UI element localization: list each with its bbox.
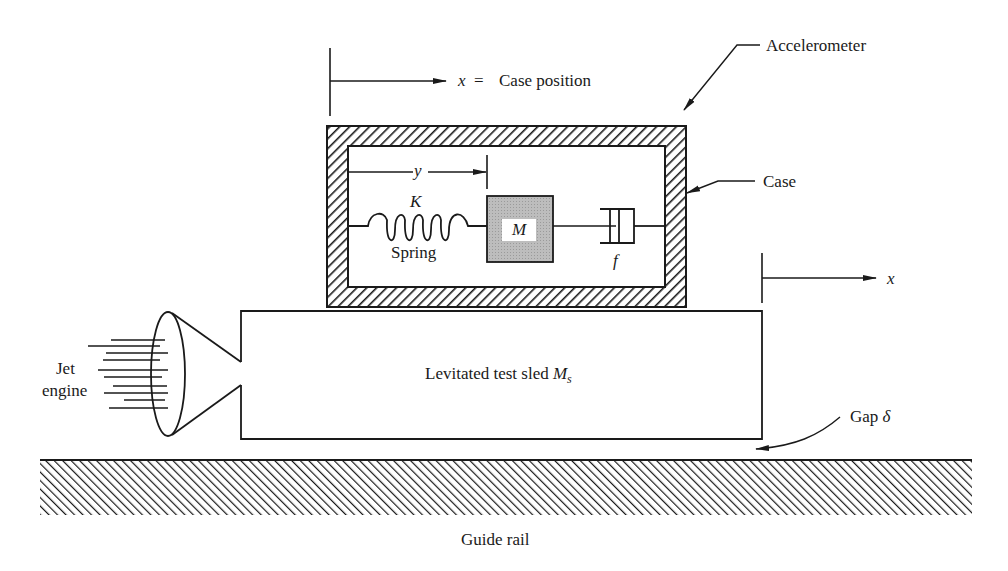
spring	[348, 214, 487, 240]
mass-label: M	[502, 219, 536, 241]
sled-mass-symbol: Ms	[553, 364, 572, 383]
case-position-indicator	[330, 48, 446, 116]
jet-engine-label-line1: Jet	[56, 360, 75, 377]
damper	[600, 209, 665, 243]
sled-mass-subscript: s	[567, 372, 572, 386]
spring-label: Spring	[391, 244, 436, 261]
sled-label: Levitated test sled Ms	[425, 365, 572, 385]
accelerometer-leader-arrow	[684, 45, 760, 110]
case-position-eq: =	[474, 72, 484, 89]
gap-label: Gap δ	[850, 408, 890, 425]
gap-delta-symbol: δ	[883, 407, 891, 426]
x-variable-label: x	[887, 270, 895, 287]
gap-leader-arrow	[756, 417, 840, 449]
x-position-indicator	[762, 253, 876, 303]
spring-constant-label: K	[410, 193, 421, 210]
guide-rail-label: Guide rail	[461, 531, 529, 548]
y-variable-label: y	[414, 162, 422, 179]
case-position-label: Case position	[499, 72, 591, 89]
sled-label-text: Levitated test sled	[425, 364, 549, 383]
jet-exhaust-lines	[88, 340, 168, 408]
jet-engine	[151, 312, 241, 436]
damper-label: f	[613, 252, 618, 269]
case-label: Case	[763, 173, 796, 190]
case-position-var: x	[458, 72, 466, 89]
guide-rail	[40, 460, 972, 515]
case-leader-arrow	[687, 181, 755, 193]
jet-engine-label-line2: engine	[42, 382, 87, 399]
gap-label-text: Gap	[850, 407, 878, 426]
accelerometer-label: Accelerometer	[766, 37, 866, 54]
sled-mass-letter: M	[553, 364, 567, 383]
